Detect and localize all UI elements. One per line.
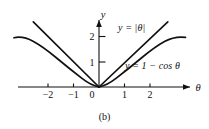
x-tick-label-0: 0 <box>90 89 95 100</box>
x-tick-label--2: −2 <box>43 89 54 100</box>
x-tick-label-2: 2 <box>148 89 153 100</box>
x-tick-label--1: −1 <box>68 89 79 100</box>
figure-caption: (b) <box>0 111 209 122</box>
y-tick-label-1: 1 <box>90 57 95 68</box>
figure-panel-b: −2 −1 0 1 2 1 2 y θ y = |θ| y = 1 − cos … <box>0 0 209 129</box>
x-tick-label-1: 1 <box>122 89 127 100</box>
x-axis-label: θ <box>195 82 200 93</box>
y-axis-arrow-icon <box>96 20 102 27</box>
y-axis-label: y <box>100 9 106 20</box>
curve-label-one-minus-cos: y = 1 − cos θ <box>125 60 180 71</box>
curve-label-abs-theta: y = |θ| <box>118 22 145 33</box>
x-axis-arrow-icon <box>183 84 190 90</box>
y-tick-label-2: 2 <box>90 31 95 42</box>
